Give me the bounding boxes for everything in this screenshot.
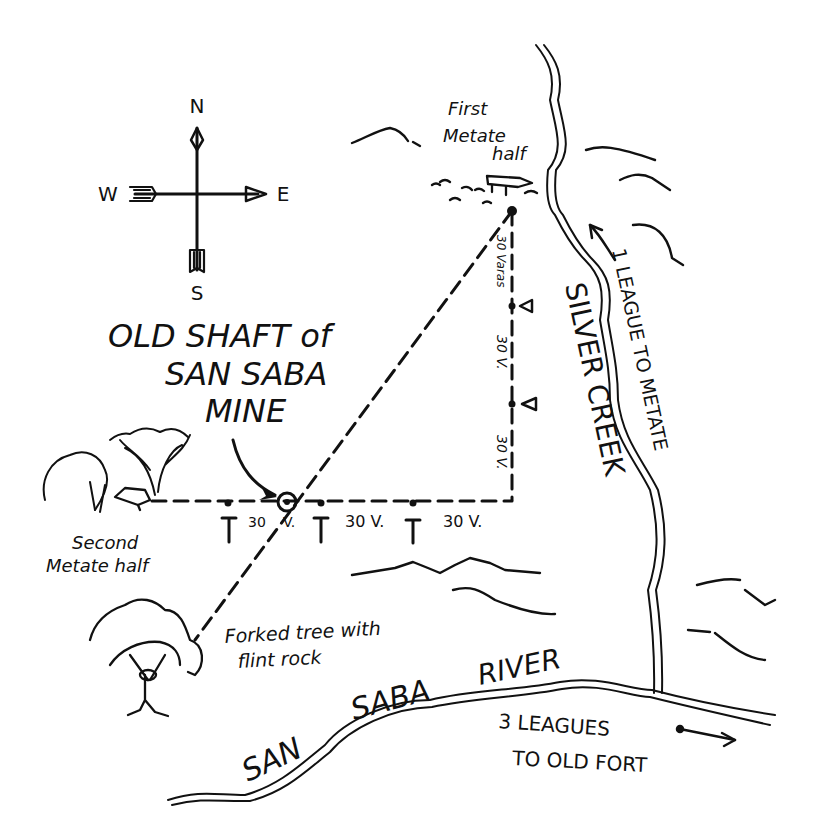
treasure-map: N S E W: [0, 0, 819, 840]
compass-rose: N S E W: [98, 94, 289, 305]
first-metate-label-3: half: [492, 143, 528, 164]
trees-icon: [44, 428, 190, 512]
second-metate-label-2: Metate half: [46, 555, 151, 576]
forked-tree-icon: [90, 600, 202, 716]
horizontal-distance-1a: 30: [248, 514, 266, 530]
to-fort-line1: 3 LEAGUES: [498, 709, 611, 741]
terrain-ridges: [352, 128, 775, 660]
to-fort-line2: TO OLD FORT: [511, 746, 649, 777]
vertical-distance-3: 30 V.: [494, 435, 510, 470]
vertical-distance-2: 30 V.: [494, 335, 510, 370]
horizontal-distance-1b: V.: [283, 514, 295, 530]
second-metate-icon: [115, 488, 150, 510]
compass-east: E: [277, 182, 290, 206]
vertical-distance-1: 30 Varas: [494, 235, 508, 287]
compass-south: S: [191, 281, 204, 305]
forked-tree-label-1: Forked tree with: [224, 617, 381, 647]
compass-north: N: [190, 94, 205, 118]
river-label-saba: SABA: [347, 672, 434, 727]
first-metate-icon: [432, 176, 537, 203]
san-saba-river-line: [168, 680, 775, 805]
compass-west: W: [98, 182, 118, 206]
title-line-2: SAN SABA: [165, 355, 327, 393]
first-metate-label-1: First: [448, 98, 488, 119]
silver-creek-label: SILVER CREEK: [558, 280, 631, 480]
forked-tree-label-2: flint rock: [237, 646, 323, 672]
title-line-1: OLD SHAFT of: [108, 317, 336, 355]
title-line-3: MINE: [205, 392, 287, 430]
horizontal-distance-2: 30 V.: [345, 512, 384, 531]
horizontal-distance-3: 30 V.: [443, 512, 482, 531]
second-metate-label-1: Second: [72, 532, 139, 553]
